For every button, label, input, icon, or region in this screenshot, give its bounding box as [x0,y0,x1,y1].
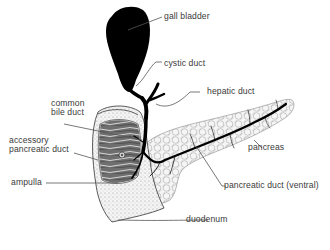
gall-bladder-shape [106,7,150,92]
label-pancreatic-duct-ventral: pancreatic duct (ventral) [224,181,319,190]
label-ampulla: ampulla [11,178,42,187]
label-cystic-duct: cystic duct [164,59,205,68]
label-hepatic-duct: hepatic duct [207,87,255,96]
label-common-bile-duct-line2: bile duct [51,108,84,117]
label-gall-bladder: gall bladder [164,12,210,21]
label-pancreas: pancreas [248,143,284,152]
anatomy-diagram [0,0,330,250]
label-accessory-pancreatic-duct-line2: pancreatic duct [9,145,69,154]
label-duodenum: duodenum [186,215,227,224]
